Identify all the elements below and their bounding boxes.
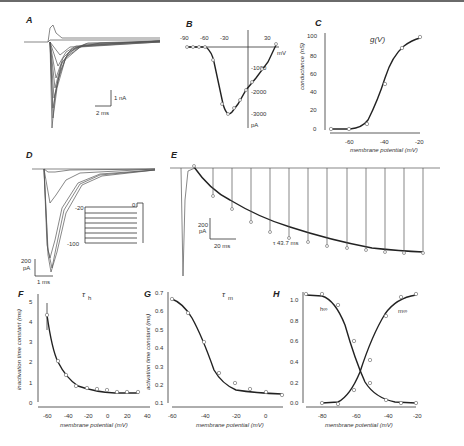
panel-g-ytick: 0.5 — [155, 327, 164, 333]
panel-h-label: H — [273, 289, 280, 299]
panel-c-title: g(V) — [370, 35, 385, 44]
inset-label-bottom: -100 — [67, 241, 80, 247]
panel-f-xtick: 40 — [144, 413, 151, 419]
panel-c-xtick: -20 — [415, 139, 424, 145]
panel-c-ytick: 100 — [307, 33, 318, 39]
panel-d-large-trace-3 — [44, 169, 155, 272]
panel-a-trace-3 — [50, 41, 160, 108]
panel-g-xtick: 0 — [264, 413, 268, 419]
panel-f-ytick: 4 — [29, 319, 33, 325]
panel-d-large-trace-2 — [44, 169, 155, 258]
panel-g-xtick: -20 — [232, 413, 241, 419]
panel-d-large-trace-1 — [44, 169, 155, 268]
panel-d-scale-y2: pA — [23, 265, 30, 271]
panel-h-ytick: 0.6 — [290, 338, 299, 344]
panel-h-ytick: 0.2 — [290, 380, 299, 386]
figure-canvas: A 1 nA 2 ms B -90 -60 -30 30 mV -1000 -2… — [0, 0, 464, 446]
panel-b-yunit: pA — [251, 122, 258, 128]
panel-h-ytick: 0.4 — [290, 359, 299, 365]
panel-c-ytick: 0 — [313, 126, 317, 132]
panel-g-xtick: -60 — [168, 413, 177, 419]
panel-h-xtick: -40 — [384, 413, 393, 419]
panel-g-ytick: 0.4 — [155, 345, 164, 351]
panel-c-xtick: -40 — [380, 139, 389, 145]
panel-e-conditioning-spike — [181, 168, 195, 276]
panel-c: C g(V) 0 20 40 60 80 100 -60 -40 -20 mem… — [299, 18, 424, 153]
panel-f: F τ h 0 1 2 3 4 5 -60 -40 -20 0 20 40 me… — [16, 289, 151, 428]
panel-f-ytick: 5 — [29, 299, 33, 305]
panel-g-ytick: 0.7 — [155, 290, 164, 296]
panel-b-xtick: 30 — [264, 35, 271, 41]
panel-g-ytick: 0.3 — [155, 364, 164, 370]
panel-h: H 0.0 0.2 0.4 0.6 0.8 1.0 -80 -60 -40 -2… — [273, 289, 422, 428]
panel-f-ytick: 3 — [29, 339, 33, 345]
panel-a-trace-5 — [50, 41, 160, 88]
panel-f-xtick: -60 — [43, 413, 52, 419]
panel-g-ytick: 0.6 — [155, 308, 164, 314]
panel-g-xlabel: membrane potential (mV) — [196, 422, 264, 428]
panel-c-ytick: 60 — [310, 71, 317, 77]
panel-g-xtick: -40 — [201, 413, 210, 419]
panel-g-title-sub: m — [228, 295, 233, 301]
panel-f-label: F — [18, 289, 24, 299]
panel-a-outward-trace — [48, 25, 160, 42]
panel-e-test-pulses — [213, 168, 423, 253]
panel-b-ytick: -3000 — [251, 111, 267, 117]
panel-b-label: B — [186, 19, 193, 29]
panel-b-xunit: mV — [277, 50, 286, 56]
panel-b-xtick: -60 — [200, 35, 209, 41]
panel-e-scale-y2: pA — [199, 228, 206, 234]
panel-f-xlabel: membrane potential (mV) — [60, 422, 128, 428]
panel-f-xtick: -40 — [64, 413, 73, 419]
panel-c-xtick: -60 — [345, 139, 354, 145]
panel-a-trace-2 — [50, 42, 160, 118]
panel-f-xtick: -20 — [84, 413, 93, 419]
panel-f-ytick: 2 — [29, 359, 33, 365]
panel-h-xtick: -80 — [318, 413, 327, 419]
panel-f-points — [45, 313, 139, 393]
panel-g: G τ m 0.1 0.2 0.3 0.4 0.5 0.6 0.7 -60 -4… — [144, 289, 284, 428]
panel-e-scale-x: 20 ms — [214, 243, 230, 249]
inset-label-top: -20 — [75, 205, 84, 211]
panel-f-xtick: 0 — [106, 413, 110, 419]
panel-h-xtick: -60 — [352, 413, 361, 419]
panel-d-protocol-inset: -20 -100 0 — [67, 202, 143, 247]
panel-a-scale-x: 2 ms — [96, 110, 109, 116]
panel-b-xtick: -90 — [180, 35, 189, 41]
panel-b-iv-curve — [187, 45, 276, 114]
panel-c-label: C — [315, 18, 322, 28]
panel-c-ytick: 20 — [310, 107, 317, 113]
panel-h-hinf-label: h∞ — [320, 306, 328, 312]
panel-f-title: τ — [82, 290, 86, 299]
panel-a-scale-y: 1 nA — [114, 95, 126, 101]
panel-g-ytick: 0.2 — [155, 382, 164, 388]
panel-g-ytick: 0.1 — [155, 400, 164, 406]
panel-b-xtick: -30 — [220, 35, 229, 41]
panel-d: D -20 -100 0 200 pA 1 ms — [21, 150, 155, 285]
panel-h-ytick: 0.8 — [290, 318, 299, 324]
panel-c-ylabel: conductance (nS) — [299, 43, 305, 90]
panel-h-xtick: -20 — [413, 413, 422, 419]
panel-g-title: τ — [222, 290, 226, 299]
panel-f-ytick: 1 — [29, 380, 33, 386]
panel-e: E τ 43.7 ms 200 pA 20 ms — [170, 150, 440, 276]
panel-g-label: G — [144, 289, 151, 299]
panel-d-scale-x: 1 ms — [37, 279, 50, 285]
panel-b-ytick: -2000 — [251, 89, 267, 95]
panel-a-label: A — [25, 15, 33, 25]
panel-h-ytick: 1.0 — [290, 297, 299, 303]
panel-h-xlabel: membrane potential (mV) — [325, 422, 393, 428]
panel-b: B -90 -60 -30 30 mV -1000 -2000 -3000 pA — [180, 19, 286, 128]
panel-d-scale-y1: 200 — [21, 258, 32, 264]
panel-h-ytick: 0.0 — [290, 400, 299, 406]
panel-c-ytick: 80 — [310, 53, 317, 59]
panel-f-fit-curve — [47, 315, 139, 393]
panel-e-points — [193, 165, 425, 255]
panel-b-points — [186, 43, 278, 116]
panel-d-label: D — [26, 150, 33, 160]
panel-e-tau-annotation: τ 43.7 ms — [273, 240, 298, 246]
panel-c-points — [329, 35, 421, 130]
panel-c-ytick: 40 — [310, 89, 317, 95]
panel-f-title-sub: h — [88, 295, 91, 301]
panel-a-scalebar — [95, 90, 111, 106]
